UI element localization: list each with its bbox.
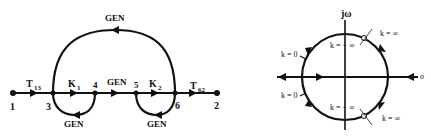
- node-label-4: 4: [93, 80, 98, 90]
- label-k-zero-top: k = 0: [281, 50, 298, 59]
- branch-label-gen-mid: GEN: [107, 77, 127, 87]
- axis-label-sigma: σ: [420, 72, 425, 81]
- label-k-zero-bottom: k = 0: [281, 91, 298, 100]
- branch-sub-k2: 2: [158, 84, 162, 92]
- label-k-inf-top: k = ∞: [380, 29, 399, 38]
- branch-label-gen-loop-left: GEN: [64, 119, 84, 129]
- arrow-loop-right-icon: [154, 111, 162, 119]
- arrow-gen-icon: [111, 89, 119, 97]
- arrow-right-icon: [316, 73, 324, 81]
- branch-label-t13: T: [26, 78, 33, 89]
- label-k-inf-bottom: k = ∞: [382, 114, 401, 123]
- node-4: [93, 91, 98, 96]
- feedback-loop-left: [53, 93, 95, 115]
- root-locus: jω σ k = ∞ k = − ∞ k = 0 k = 0 k = − ∞ k…: [277, 8, 425, 130]
- arrow-circle-lr-icon: [378, 102, 385, 110]
- tick-k0-top: [300, 56, 306, 59]
- arrow-top-arc-icon: [111, 26, 119, 34]
- signal-flow-graph: 1 3 4 5 6 2 T 13 K 1 GEN K 2 T 62 GEN GE…: [10, 13, 220, 129]
- figure-canvas: 1 3 4 5 6 2 T 13 K 1 GEN K 2 T 62 GEN GE…: [0, 0, 431, 139]
- axis-label-jw: jω: [340, 8, 352, 19]
- arrow-left-icon: [278, 73, 286, 81]
- branch-label-k2: K: [149, 78, 157, 89]
- node-6: [173, 91, 178, 96]
- branch-label-gen-loop-right: GEN: [147, 119, 167, 129]
- node-3: [51, 91, 56, 96]
- branch-label-k1: K: [68, 78, 76, 89]
- node-label-6: 6: [175, 100, 180, 111]
- node-label-5: 5: [134, 80, 139, 90]
- branch-sub-k1: 1: [77, 84, 81, 92]
- branch-sub-t62: 62: [198, 86, 206, 94]
- node-label-1: 1: [10, 101, 15, 112]
- node-1: [10, 90, 16, 96]
- node-2: [214, 90, 220, 96]
- node-5: [134, 91, 139, 96]
- node-label-2: 2: [214, 100, 219, 111]
- label-k-neg-inf-bottom: k = − ∞: [330, 103, 355, 112]
- arrow-circle-ur-icon: [378, 44, 386, 52]
- branch-label-t62: T: [190, 80, 197, 91]
- node-label-3: 3: [46, 101, 51, 112]
- arrow-incoming-icon: [406, 73, 414, 81]
- label-k-neg-inf-top: k = − ∞: [330, 41, 355, 50]
- arrow-loop-left-icon: [72, 111, 80, 119]
- branch-label-gen-top: GEN: [105, 13, 125, 23]
- feedback-loop-right: [136, 93, 175, 115]
- branch-sub-t13: 13: [34, 84, 42, 92]
